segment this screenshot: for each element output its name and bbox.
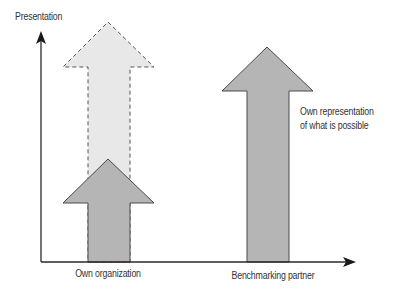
x-label-benchmarking-partner: Benchmarking partner	[231, 270, 314, 281]
annotation-line-2: of what is possible	[300, 120, 369, 131]
x-label-own-organization: Own organization	[75, 268, 141, 279]
own-organization-arrow	[63, 159, 154, 262]
y-axis-label: Presentation	[15, 11, 62, 22]
annotation-line-1: Own representation	[300, 106, 374, 117]
diagram-canvas	[0, 0, 395, 295]
benchmarking-partner-arrow	[222, 47, 313, 262]
